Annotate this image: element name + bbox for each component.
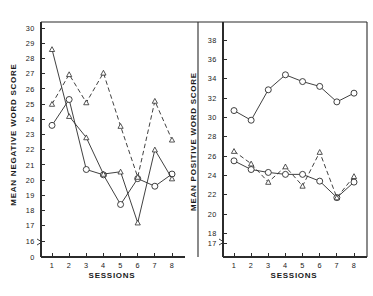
dual-line-chart: 302928272625242322212019181716012345678S… <box>0 0 373 296</box>
right-y-tick-label: 36 <box>208 55 217 64</box>
right-y-tick-label: 20 <box>208 210 217 219</box>
left-y-tick-label: 25 <box>26 100 35 109</box>
left-x-tick-label: 4 <box>101 261 106 270</box>
data-point-series-e-solid-circle-low <box>351 179 357 185</box>
right-y-tick-label: 30 <box>208 113 217 122</box>
left-x-tick-label: 7 <box>153 261 158 270</box>
right-y-tick-label: 22 <box>208 190 217 199</box>
data-point-series-d-solid-circle-high <box>300 79 306 85</box>
left-y-tick-label: 28 <box>26 54 35 63</box>
data-point-series-e-solid-circle-low <box>265 169 271 175</box>
left-y-tick-label: 22 <box>26 145 35 154</box>
right-x-tick-label: 6 <box>317 261 322 270</box>
left-x-tick-label: 1 <box>50 261 55 270</box>
data-point-series-e-solid-circle-low <box>300 171 306 177</box>
data-point-series-e-solid-circle-low <box>248 167 254 173</box>
data-point-series-e-solid-circle-low <box>317 178 323 184</box>
data-point-series-f-dashed-triangle <box>266 180 271 185</box>
left-y-tick-label: 17 <box>26 221 35 230</box>
data-point-series-d-solid-circle-high <box>282 72 288 78</box>
data-point-series-b-solid-triangle <box>67 114 72 119</box>
left-y-tick-label: 30 <box>26 24 35 33</box>
data-point-series-d-solid-circle-high <box>231 108 237 114</box>
left-y-tick-label: 19 <box>26 191 35 200</box>
left-x-tick-label: 2 <box>67 261 72 270</box>
data-point-series-a-solid-circle <box>152 183 158 189</box>
right-y-tick-label: 17 <box>208 239 217 248</box>
data-point-series-d-solid-circle-high <box>248 117 254 123</box>
left-y-axis-title: MEAN NEGATIVE WORD SCORE <box>9 63 18 205</box>
right-x-tick-label: 8 <box>352 261 357 270</box>
left-x-tick-label: 6 <box>135 261 140 270</box>
left-y-tick-label: 23 <box>26 130 35 139</box>
right-y-tick-label: 28 <box>208 132 217 141</box>
right-y-tick-label: 18 <box>208 229 217 238</box>
data-point-series-f-dashed-triangle <box>351 174 356 179</box>
right-x-tick-label: 4 <box>283 261 288 270</box>
left-y-tick-label: 27 <box>26 69 35 78</box>
data-point-series-a-solid-circle <box>66 97 72 103</box>
data-point-series-d-solid-circle-high <box>265 87 271 93</box>
data-point-series-f-dashed-triangle <box>283 164 288 169</box>
left-x-tick-label: 8 <box>170 261 175 270</box>
right-y-tick-label: 24 <box>208 171 217 180</box>
left-y-tick-label: 16 <box>26 237 35 246</box>
left-x-tick-label: 3 <box>84 261 89 270</box>
figure-canvas: 302928272625242322212019181716012345678S… <box>0 0 373 296</box>
right-y-tick-label: 34 <box>208 74 217 83</box>
right-y-axis-title: MEAN POSITIVE WORD SCORE <box>189 72 198 211</box>
data-point-series-f-dashed-triangle <box>231 149 236 154</box>
data-point-series-c-dashed-triangle <box>169 137 174 142</box>
data-point-series-d-solid-circle-high <box>351 90 357 96</box>
data-point-series-a-solid-circle <box>83 166 89 172</box>
data-point-series-c-dashed-triangle <box>152 98 157 103</box>
left-y-tick-label: 24 <box>26 115 35 124</box>
left-y-tick-label: 18 <box>26 206 35 215</box>
right-x-tick-label: 2 <box>249 261 254 270</box>
data-point-series-b-solid-triangle <box>49 47 54 52</box>
data-point-series-d-solid-circle-high <box>334 99 340 105</box>
data-point-series-d-solid-circle-high <box>317 83 323 89</box>
data-point-series-c-dashed-triangle <box>84 100 89 105</box>
data-point-series-b-solid-triangle <box>135 220 140 225</box>
data-point-series-e-solid-circle-low <box>282 171 288 177</box>
data-point-series-c-dashed-triangle <box>101 70 106 75</box>
data-point-series-c-dashed-triangle <box>118 124 123 129</box>
left-x-tick-label: 5 <box>118 261 123 270</box>
data-point-series-e-solid-circle-low <box>231 158 237 164</box>
right-y-tick-label: 26 <box>208 152 217 161</box>
right-y-tick-label: 38 <box>208 36 217 45</box>
data-point-series-c-dashed-triangle <box>67 72 72 77</box>
left-y-tick-label: 0 <box>30 253 35 262</box>
right-x-axis-title: SESSIONS <box>271 271 318 280</box>
right-y-tick-label: 32 <box>208 94 217 103</box>
right-x-tick-label: 5 <box>300 261 305 270</box>
data-point-series-a-solid-circle <box>49 122 55 128</box>
left-y-tick-label: 21 <box>26 161 35 170</box>
right-x-tick-label: 3 <box>266 261 271 270</box>
right-x-tick-label: 7 <box>335 261 340 270</box>
series-line-series-c-dashed-triangle <box>52 73 172 177</box>
data-point-series-a-solid-circle <box>118 201 124 207</box>
left-y-tick-label: 26 <box>26 85 35 94</box>
left-y-tick-label: 20 <box>26 176 35 185</box>
left-x-axis-title: SESSIONS <box>89 271 136 280</box>
right-x-tick-label: 1 <box>232 261 237 270</box>
data-point-series-c-dashed-triangle <box>49 101 54 106</box>
data-point-series-f-dashed-triangle <box>317 150 322 155</box>
data-point-series-b-solid-triangle <box>152 147 157 152</box>
series-line-series-d-solid-circle-high <box>234 75 354 120</box>
data-point-series-f-dashed-triangle <box>300 183 305 188</box>
left-y-tick-label: 29 <box>26 39 35 48</box>
